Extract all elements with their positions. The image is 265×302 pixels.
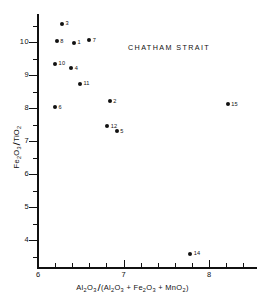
y-tick-label: 9 — [5, 71, 29, 79]
fraction-slash-icon: / — [11, 141, 22, 148]
data-point-label: 11 — [83, 81, 89, 87]
y-tick-label: 10 — [5, 38, 29, 46]
y-tick-minor — [33, 125, 38, 126]
y-tick-minor — [33, 92, 38, 93]
y-tick-minor — [33, 59, 38, 60]
data-point — [60, 22, 64, 26]
data-point-label: 14 — [194, 251, 201, 257]
y-tick-label: 5 — [5, 203, 29, 211]
x-tick-major — [38, 260, 39, 268]
data-point-label: 5 — [120, 129, 123, 135]
y-tick-major — [29, 42, 38, 43]
x-tick-label: 7 — [115, 271, 133, 279]
data-point-label: 10 — [59, 61, 66, 67]
data-point — [69, 66, 73, 70]
y-tick-minor — [33, 191, 38, 192]
x-tick-minor — [192, 263, 193, 268]
data-point — [72, 41, 76, 45]
x-tick-label: 6 — [29, 271, 47, 279]
data-point — [55, 39, 59, 43]
y-axis-denominator: TiO2 — [12, 126, 21, 142]
y-axis-numerator: Fe2O3 — [12, 146, 21, 168]
y-axis-title: Fe2O3/TiO2 — [12, 99, 22, 195]
y-tick-major — [29, 141, 38, 142]
fraction-slash-icon: / — [95, 282, 102, 293]
x-tick-minor — [141, 263, 142, 268]
x-axis-numerator: Al2O3 — [76, 283, 96, 292]
x-tick-minor — [158, 263, 159, 268]
y-tick-minor — [33, 257, 38, 258]
data-point-label: 4 — [75, 66, 78, 72]
data-point — [108, 99, 112, 103]
y-tick-minor — [33, 224, 38, 225]
data-point-label: 7 — [93, 38, 96, 44]
data-point-label: 15 — [231, 102, 238, 108]
x-tick-minor — [89, 263, 90, 268]
y-tick-minor — [33, 158, 38, 159]
data-point-label: 6 — [59, 105, 62, 111]
x-tick-minor — [72, 263, 73, 268]
x-tick-minor — [243, 263, 244, 268]
x-tick-minor — [106, 263, 107, 268]
data-point — [115, 129, 119, 133]
data-point — [105, 124, 109, 128]
y-tick-major — [29, 207, 38, 208]
x-axis-line — [37, 267, 257, 269]
data-point-label: 3 — [65, 21, 68, 27]
y-tick-major — [29, 108, 38, 109]
scatter-plot-figure: 10987654 678 381710411621251514 CHATHAM … — [0, 0, 265, 302]
x-tick-minor — [55, 263, 56, 268]
data-point-label: 1 — [77, 40, 80, 46]
x-tick-label: 8 — [200, 271, 218, 279]
data-point — [188, 252, 192, 256]
y-tick-label: 4 — [5, 236, 29, 244]
x-tick-major — [209, 260, 210, 268]
data-point — [53, 62, 57, 66]
y-tick-minor — [33, 26, 38, 27]
y-tick-major — [29, 240, 38, 241]
x-axis-denominator: (Al2O3 + Fe2O3 + MnO2) — [101, 283, 189, 292]
x-tick-minor — [175, 263, 176, 268]
data-point — [53, 105, 57, 109]
data-point-label: 2 — [113, 99, 116, 105]
data-point-label: 8 — [60, 39, 63, 45]
y-tick-major — [29, 174, 38, 175]
data-point — [87, 38, 91, 42]
y-tick-major — [29, 75, 38, 76]
data-point — [78, 82, 82, 86]
x-axis-title: Al2O3/(Al2O3 + Fe2O3 + MnO2) — [0, 283, 265, 293]
plot-title: CHATHAM STRAIT — [128, 43, 210, 52]
data-point — [226, 102, 230, 106]
x-tick-major — [124, 260, 125, 268]
x-tick-minor — [226, 263, 227, 268]
